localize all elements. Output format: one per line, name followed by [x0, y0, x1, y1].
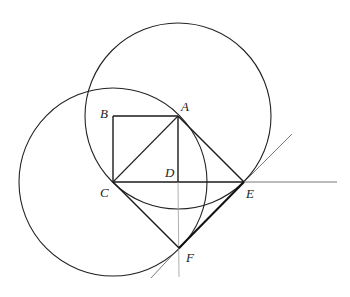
- segment-fe: [179, 182, 244, 248]
- label-b: B: [100, 106, 108, 121]
- label-a: A: [180, 99, 189, 114]
- vertical-line-df: [178, 182, 179, 277]
- label-d: D: [164, 165, 175, 180]
- label-f: F: [185, 250, 195, 265]
- geometry-diagram: A B C D E F: [0, 0, 350, 297]
- label-c: C: [100, 185, 109, 200]
- segment-ae: [178, 116, 244, 182]
- label-e: E: [245, 186, 254, 201]
- tangent-line-lower: [151, 248, 179, 278]
- segment-cf: [113, 182, 179, 248]
